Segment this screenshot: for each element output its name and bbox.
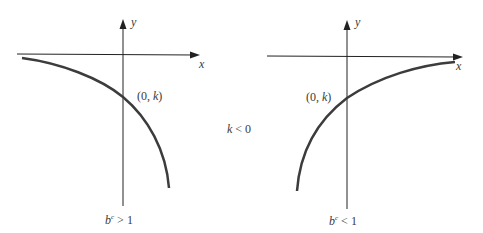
right-intercept-label: (0, k) bbox=[306, 90, 331, 105]
center-rest: < 0 bbox=[232, 122, 251, 136]
right-condition-rest: < 1 bbox=[338, 214, 357, 228]
right-condition-label: bc < 1 bbox=[329, 214, 357, 229]
right-y-axis-label: y bbox=[355, 15, 360, 30]
left-x-axis-label: x bbox=[199, 57, 204, 72]
left-intercept-open: (0, bbox=[137, 89, 153, 103]
left-intercept-label: (0, k) bbox=[137, 89, 162, 104]
left-graph bbox=[17, 19, 200, 206]
right-x-axis-label: x bbox=[456, 59, 461, 74]
right-intercept-open: (0, bbox=[306, 90, 322, 104]
left-condition-rest: > 1 bbox=[114, 213, 133, 227]
center-condition-label: k < 0 bbox=[227, 122, 251, 137]
right-x-axis bbox=[267, 56, 458, 57]
left-curve bbox=[22, 58, 169, 188]
right-y-axis-arrow-icon bbox=[344, 20, 351, 30]
diagram-canvas bbox=[0, 0, 483, 233]
right-curve bbox=[297, 62, 455, 191]
left-y-axis-arrow-icon bbox=[120, 19, 127, 29]
left-y-axis-label: y bbox=[131, 15, 136, 30]
right-intercept-close: ) bbox=[327, 90, 331, 104]
left-intercept-close: ) bbox=[158, 89, 162, 103]
right-graph bbox=[267, 20, 463, 209]
left-condition-label: bc > 1 bbox=[105, 213, 133, 228]
left-x-axis bbox=[17, 54, 196, 55]
